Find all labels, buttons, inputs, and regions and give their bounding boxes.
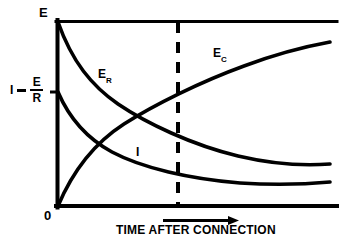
curve-label-er: ER bbox=[98, 68, 112, 83]
curve-label-ec: EC bbox=[213, 47, 227, 62]
equals-icon bbox=[17, 89, 26, 92]
curve-label-i: I bbox=[136, 146, 139, 158]
fraction-numerator: E bbox=[33, 76, 41, 89]
y-axis-top-label: E bbox=[39, 6, 48, 19]
x-axis-caption: TIME AFTER CONNECTION bbox=[116, 224, 276, 236]
plot-canvas bbox=[0, 0, 346, 245]
curve-label-er-base: E bbox=[98, 67, 106, 81]
rc-curves-figure: E I E R 0 ER EC I TIME AFTER CONNECTION bbox=[0, 0, 346, 245]
curve-i bbox=[58, 92, 330, 184]
e-over-r-lead: I bbox=[10, 84, 13, 96]
fraction-e-over-r: E R bbox=[30, 76, 43, 104]
curve-label-ec-base: E bbox=[213, 46, 221, 60]
curve-label-er-sub: R bbox=[106, 76, 112, 85]
curve-label-ec-sub: C bbox=[221, 55, 227, 64]
origin-label: 0 bbox=[44, 209, 51, 222]
fraction-denominator: R bbox=[33, 91, 42, 104]
y-axis-e-over-r-label: I E R bbox=[10, 76, 43, 104]
